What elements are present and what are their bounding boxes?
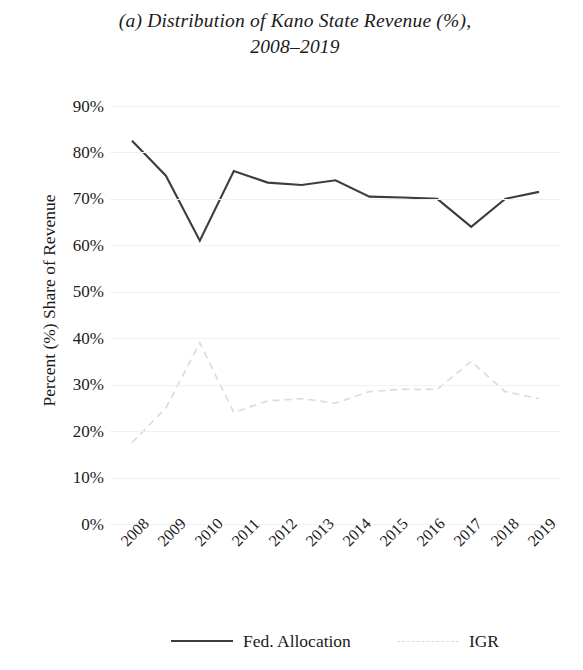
x-tick-label: 2010 [192, 515, 226, 549]
legend-line-swatch-icon [171, 640, 233, 642]
x-axis-tick-labels: 2008200920102011201220132014201520162017… [0, 0, 583, 670]
legend-item[interactable]: Fed. Allocation [171, 631, 351, 652]
x-tick-label: 2008 [118, 515, 152, 549]
x-tick-label: 2013 [303, 515, 337, 549]
legend-item[interactable]: IGR [397, 631, 499, 652]
x-tick-label: 2017 [451, 515, 485, 549]
x-tick-label: 2012 [266, 515, 300, 549]
x-tick-label: 2018 [488, 515, 522, 549]
x-tick-label: 2009 [155, 515, 189, 549]
x-tick-label: 2015 [377, 515, 411, 549]
x-tick-label: 2019 [525, 515, 559, 549]
legend-label: IGR [469, 631, 499, 652]
legend-label: Fed. Allocation [243, 631, 351, 652]
legend-line-swatch-icon [397, 641, 459, 642]
x-tick-label: 2014 [340, 515, 374, 549]
revenue-distribution-figure: (a) Distribution of Kano State Revenue (… [0, 0, 583, 670]
x-tick-label: 2011 [229, 516, 263, 550]
x-tick-label: 2016 [414, 515, 448, 549]
chart-legend: Fed. AllocationIGR [110, 626, 560, 656]
